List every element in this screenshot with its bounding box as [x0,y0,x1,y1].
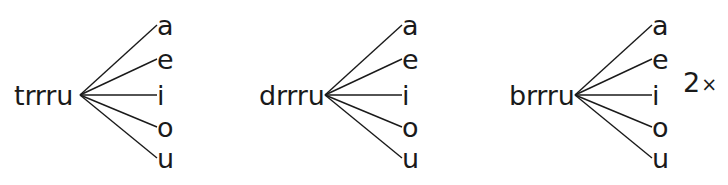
branch-label-i: i [157,82,165,109]
branch-line-o [575,95,652,127]
branch-label-o: o [157,114,174,141]
branch-line-u [575,95,652,158]
branch-label-e: e [157,46,174,73]
branch-label-a: a [402,12,419,39]
branch-line-u [80,95,157,158]
fan-branch-lines [259,0,459,185]
repetition-annotation: 2× [683,69,717,96]
branch-line-u [325,95,402,158]
branch-label-o: o [402,114,419,141]
branch-line-a [575,25,652,95]
branch-label-o: o [652,114,669,141]
branch-label-a: a [157,12,174,39]
branch-line-a [80,25,157,95]
branch-label-u: u [157,145,174,172]
multiplication-sign-icon: × [701,73,717,95]
branch-label-a: a [652,12,669,39]
branch-line-o [80,95,157,127]
branch-line-e [325,59,402,95]
branch-line-e [80,59,157,95]
fan-branch-lines [509,0,709,185]
branch-line-a [325,25,402,95]
branching-diagram: trrru a e i o u drrru a e i o u brrru [0,0,728,185]
repetition-count: 2 [683,67,700,98]
branch-label-i: i [402,82,410,109]
branch-label-e: e [652,46,669,73]
branch-line-e [575,59,652,95]
branch-label-u: u [402,145,419,172]
branch-label-u: u [652,145,669,172]
branch-line-o [325,95,402,127]
branch-label-e: e [402,46,419,73]
fan-branch-lines [14,0,214,185]
branch-label-i: i [652,82,660,109]
